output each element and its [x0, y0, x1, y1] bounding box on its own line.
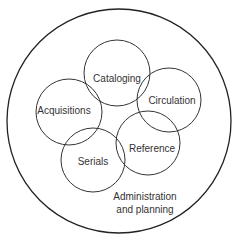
- circulation-label: Circulation: [148, 95, 195, 106]
- library-functions-diagram: Cataloging Circulation Acquisitions Refe…: [0, 0, 238, 240]
- cataloging-label: Cataloging: [93, 73, 141, 84]
- serials-label: Serials: [78, 156, 109, 167]
- reference-label: Reference: [129, 143, 176, 154]
- acquisitions-label: Acquisitions: [37, 105, 90, 116]
- administration-label-line2: and planning: [116, 204, 173, 215]
- administration-label-line1: Administration: [113, 191, 176, 202]
